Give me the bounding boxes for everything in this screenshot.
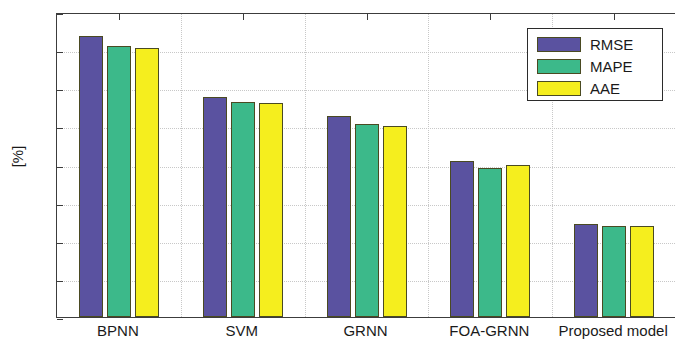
y-tick [57,319,63,320]
bar-mape-foa-grnn [478,168,502,317]
vertical-gridline [305,14,306,317]
bar-chart-figure: [%] 00.511.522.533.54 BPNNSVMGRNNFOA-GRN… [0,0,675,348]
x-tick-label: GRNN [343,322,387,339]
legend-label: RMSE [590,37,633,52]
x-tick-top [243,14,244,20]
bar-rmse-grnn [327,116,351,317]
y-tick [57,14,63,15]
x-tick-label: BPNN [97,322,139,339]
x-tick-label: FOA-GRNN [449,322,529,339]
y-tick [57,52,63,53]
bar-mape-grnn [355,124,379,317]
bar-mape-svm [231,102,255,317]
legend-swatch-mape [537,59,581,74]
legend-item-aae[interactable]: AAE [537,78,662,99]
y-tick [57,243,63,244]
bar-aae-svm [259,103,283,317]
legend-label: MAPE [590,59,633,74]
bar-rmse-bpnn [79,36,103,317]
bar-aae-foa-grnn [506,165,530,318]
x-tick-label: Proposed model [558,322,667,339]
x-tick-label: SVM [225,322,258,339]
y-tick [57,90,63,91]
chart-legend: RMSEMAPEAAE [527,28,663,101]
bar-aae-bpnn [135,48,159,317]
legend-swatch-aae [537,81,581,96]
legend-label: AAE [590,81,620,96]
bar-aae-proposed-model [630,226,654,318]
bar-aae-grnn [383,126,407,317]
x-tick-top [367,14,368,20]
bar-mape-bpnn [107,46,131,317]
legend-swatch-rmse [537,37,581,52]
vertical-gridline [428,14,429,317]
y-tick [57,205,63,206]
x-tick-top [614,14,615,20]
bar-mape-proposed-model [602,226,626,317]
y-tick [57,128,63,129]
y-tick [57,281,63,282]
bar-rmse-proposed-model [574,224,598,317]
legend-item-mape[interactable]: MAPE [537,56,662,77]
vertical-gridline [181,14,182,317]
bar-rmse-foa-grnn [450,161,474,317]
y-tick [57,167,63,168]
x-tick-top [119,14,120,20]
bar-rmse-svm [203,97,227,317]
x-tick-top [490,14,491,20]
legend-item-rmse[interactable]: RMSE [537,34,662,55]
y-axis-label: [%] [9,142,26,172]
